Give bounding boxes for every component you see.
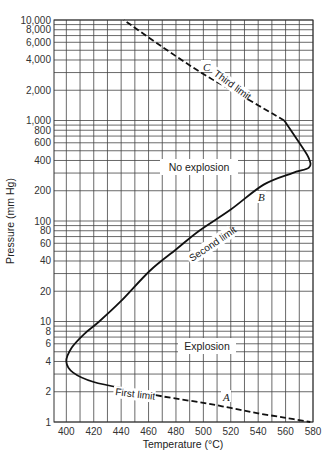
x-tick-label: 560 <box>277 426 294 437</box>
curve-letter-c: C <box>203 61 211 73</box>
y-tick-label: 400 <box>34 155 51 166</box>
y-tick-label: 2,000 <box>26 85 51 96</box>
y-tick-label: 8,000 <box>26 24 51 35</box>
explosion-label: Explosion <box>184 340 230 352</box>
grid-lines <box>54 20 313 422</box>
y-tick-label: 800 <box>34 125 51 136</box>
y-tick-label: 1,000 <box>26 115 51 126</box>
y-tick-label: 60 <box>40 238 52 249</box>
x-tick-label: 500 <box>195 426 212 437</box>
y-tick-label: 4,000 <box>26 54 51 65</box>
y-tick-label: 6 <box>45 338 51 349</box>
y-axis-ticks: 1246810204060801002004006008001,0002,000… <box>20 15 51 428</box>
y-tick-label: 40 <box>40 255 52 266</box>
x-tick-label: 520 <box>222 426 239 437</box>
curve-letter-a: A <box>222 391 230 403</box>
y-tick-label: 100 <box>34 216 51 227</box>
y-axis-label: Pressure (mm Hg) <box>4 178 16 264</box>
y-tick-label: 6,000 <box>26 37 51 48</box>
x-tick-label: 480 <box>168 426 185 437</box>
y-tick-label: 10,000 <box>20 15 51 26</box>
no-explosion-label: No explosion <box>169 161 230 173</box>
y-tick-label: 4 <box>45 356 51 367</box>
y-tick-label: 600 <box>34 137 51 148</box>
curve-letter-b: B <box>258 191 265 203</box>
y-tick-label: 1 <box>45 417 51 428</box>
y-tick-label: 80 <box>40 225 52 236</box>
x-tick-label: 540 <box>250 426 267 437</box>
y-tick-label: 200 <box>34 185 51 196</box>
y-tick-label: 2 <box>45 386 51 397</box>
x-tick-label: 580 <box>305 426 322 437</box>
y-tick-label: 20 <box>40 286 52 297</box>
first-limit-curve <box>129 390 310 422</box>
x-tick-label: 440 <box>113 426 130 437</box>
x-axis-label: Temperature (°C) <box>143 438 224 450</box>
y-tick-label: 10 <box>40 316 52 327</box>
x-tick-label: 460 <box>140 426 157 437</box>
x-tick-label: 420 <box>85 426 102 437</box>
x-tick-label: 400 <box>58 426 75 437</box>
explosion-limits-chart: 1246810204060801002004006008001,0002,000… <box>0 0 331 456</box>
y-tick-label: 8 <box>45 326 51 337</box>
x-axis-ticks: 400420440460480500520540560580 <box>58 426 322 437</box>
